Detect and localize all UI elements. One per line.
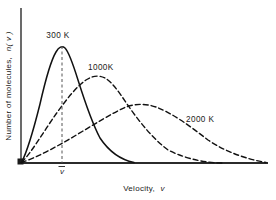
curve-300k <box>22 47 135 163</box>
y-axis-label-symbol: n( v ) <box>4 31 13 51</box>
svg-text:Number of molecules, n: Number of molecules, n( v ) <box>4 31 13 140</box>
vbar-tick-label: v <box>59 167 66 177</box>
curve-2000k <box>22 104 267 162</box>
x-axis-label-symbol: v <box>161 184 166 193</box>
y-axis-label-text: Number of molecules, <box>4 57 13 141</box>
series-label-1000k: 1000K <box>88 63 114 72</box>
series-label-2000k: 2000 K <box>186 115 214 124</box>
svg-text:Velocity, v: Velocity, v <box>123 184 165 193</box>
x-axis-label-text: Velocity, <box>123 184 155 193</box>
maxwell-boltzmann-distribution-figure: 300 K 1000K 2000 K v Velocity, v Number … <box>0 0 276 200</box>
y-axis-label: Number of molecules, n( v ) <box>4 31 13 140</box>
x-axis-label: Velocity, v <box>123 184 165 193</box>
vbar-symbol: v <box>60 167 65 176</box>
series-label-300k: 300 K <box>46 31 70 40</box>
